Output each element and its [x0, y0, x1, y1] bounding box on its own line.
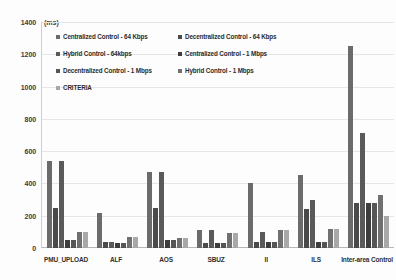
x-axis-labels: PMU_UPLOADALFAOSSBUZIIILSInter-area Cont…	[41, 252, 393, 274]
x-axis-tick-label: II	[241, 252, 291, 274]
bar	[103, 242, 108, 248]
bar	[59, 161, 64, 248]
bar	[77, 232, 82, 248]
bar	[233, 233, 238, 248]
legend-label: Centralized Control - 1 Mbps	[185, 50, 267, 57]
bar	[328, 229, 333, 248]
legend-label: Hybrid Control - 1 Mbps	[185, 67, 254, 74]
legend-item[interactable]: CRITERIA	[56, 84, 178, 91]
bar	[121, 243, 126, 248]
x-axis-tick-label: ILS	[291, 252, 341, 274]
bar	[284, 230, 289, 248]
legend-label: Centralized Control - 64 Kbps	[63, 33, 148, 40]
bar	[53, 208, 58, 248]
bar	[159, 172, 164, 248]
y-axis-tick-label: 1200	[21, 51, 36, 58]
legend-label: CRITERIA	[63, 84, 92, 91]
chart-legend: Centralized Control - 64 KbpsDecentraliz…	[56, 28, 386, 96]
bar	[266, 242, 271, 248]
y-axis-tick-label: 0	[32, 245, 36, 252]
legend-swatch-icon	[56, 69, 60, 73]
legend-swatch-icon	[178, 69, 182, 73]
bar	[177, 238, 182, 248]
bar	[310, 200, 315, 248]
bar	[366, 203, 371, 248]
bar	[183, 238, 188, 248]
legend-label: Decentralized Control - 1 Mbps	[63, 67, 152, 74]
bar	[65, 240, 70, 248]
legend-item[interactable]: Hybrid Control - 1 Mbps	[178, 67, 386, 74]
bar	[227, 233, 232, 248]
bar	[316, 242, 321, 248]
bar	[372, 203, 377, 248]
bar	[334, 229, 339, 248]
bar	[83, 232, 88, 248]
bar	[203, 243, 208, 248]
legend-swatch-icon	[56, 35, 60, 39]
bar	[115, 243, 120, 248]
y-axis-tick-label: 1000	[21, 83, 36, 90]
legend-item[interactable]: Centralized Control - 64 Kbps	[56, 33, 178, 40]
bar	[360, 133, 365, 248]
bar	[171, 240, 176, 248]
bar	[354, 203, 359, 248]
bar	[109, 242, 114, 248]
bar	[322, 242, 327, 248]
legend-item[interactable]: Decentralized Control - 64 Kbps	[178, 33, 386, 40]
legend-label: Hybrid Control - 64kbps	[63, 50, 132, 57]
bar	[260, 232, 265, 248]
y-axis-tick-label: 400	[25, 180, 36, 187]
bar	[209, 230, 214, 248]
x-axis-tick-label: PMU_UPLOAD	[41, 252, 91, 274]
y-axis-tick-label: 200	[25, 212, 36, 219]
x-axis-tick-label: SBUZ	[191, 252, 241, 274]
bar	[97, 213, 102, 249]
bar	[127, 237, 132, 248]
bar	[221, 243, 226, 248]
y-axis: 1400120010008006004002000	[0, 18, 40, 250]
y-axis-tick-label: 800	[25, 115, 36, 122]
legend-swatch-icon	[56, 52, 60, 56]
bar	[165, 240, 170, 248]
bar	[384, 216, 389, 248]
legend-swatch-icon	[178, 52, 182, 56]
legend-swatch-icon	[56, 86, 60, 90]
y-axis-tick-label: 1400	[21, 19, 36, 26]
x-axis-tick-label: AOS	[141, 252, 191, 274]
legend-item[interactable]: Decentralized Control - 1 Mbps	[56, 67, 178, 74]
bar-chart: (ms) 1400120010008006004002000 PMU_UPLOA…	[0, 0, 396, 280]
bar	[47, 161, 52, 248]
y-axis-tick-label: 600	[25, 148, 36, 155]
bar	[272, 242, 277, 248]
legend-swatch-icon	[178, 35, 182, 39]
bar	[378, 195, 383, 248]
bar	[248, 183, 253, 248]
bar	[153, 208, 158, 248]
bar	[304, 209, 309, 248]
bar	[254, 242, 259, 248]
x-axis-tick-label: ALF	[91, 252, 141, 274]
bar	[197, 230, 202, 248]
legend-item[interactable]: Centralized Control - 1 Mbps	[178, 50, 386, 57]
bar	[147, 172, 152, 248]
legend-item[interactable]: Hybrid Control - 64kbps	[56, 50, 178, 57]
bar	[278, 230, 283, 248]
bar	[298, 175, 303, 248]
bar	[71, 240, 76, 248]
legend-label: Decentralized Control - 64 Kbps	[185, 33, 276, 40]
x-axis-tick-label: Inter-area Control	[341, 252, 393, 274]
bar	[215, 243, 220, 248]
bar	[133, 237, 138, 248]
